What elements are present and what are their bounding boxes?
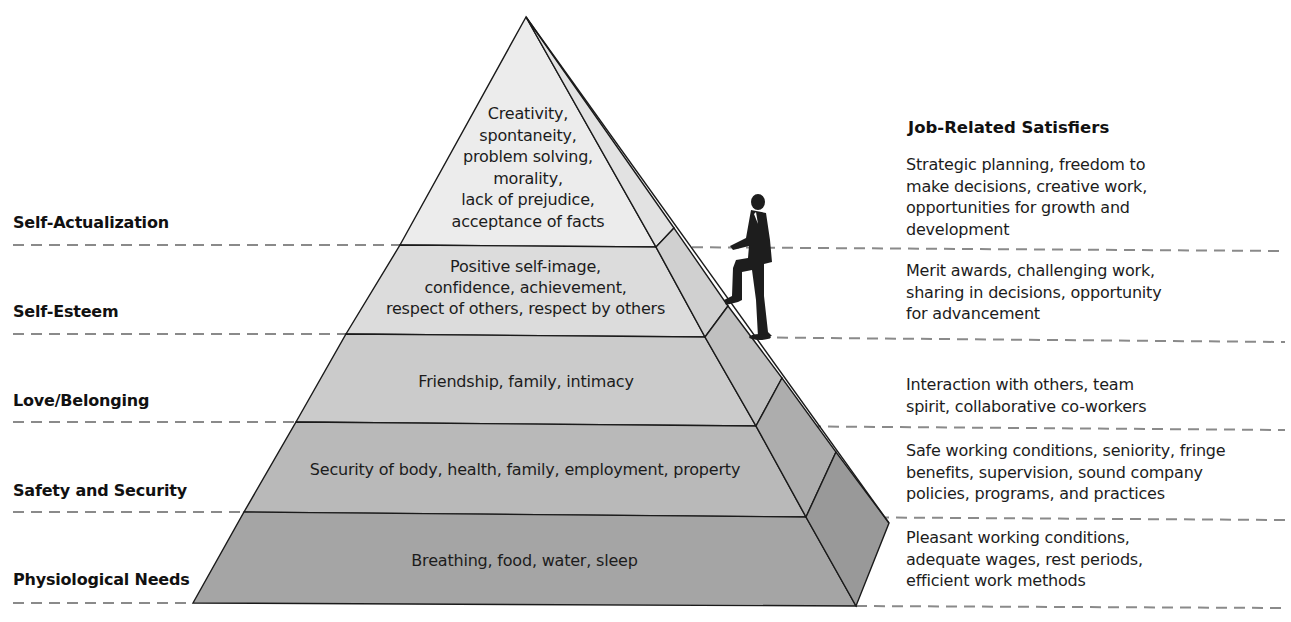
level-label-safety-security: Safety and Security <box>13 481 187 500</box>
satisfier-self-esteem: Merit awards, challenging work, sharing … <box>906 260 1161 325</box>
maslow-diagram: Self-Actualization Self-Esteem Love/Belo… <box>0 0 1291 622</box>
satisfier-love-belonging: Interaction with others, team spirit, co… <box>906 374 1146 417</box>
satisfier-physiological: Pleasant working conditions, adequate wa… <box>906 527 1143 592</box>
tier-text-safety-security: Security of body, health, family, employ… <box>244 459 806 480</box>
satisfier-self-actualization: Strategic planning, freedom to make deci… <box>906 154 1147 240</box>
tier-text-love-belonging: Friendship, family, intimacy <box>296 371 756 392</box>
level-label-physiological: Physiological Needs <box>13 570 190 589</box>
satisfier-safety-security: Safe working conditions, seniority, frin… <box>906 440 1225 505</box>
level-label-self-esteem: Self-Esteem <box>13 302 118 321</box>
tier-text-self-esteem: Positive self-image, confidence, achieve… <box>346 256 705 319</box>
level-label-love-belonging: Love/Belonging <box>13 391 149 410</box>
satisfiers-heading: Job-Related Satisfiers <box>908 118 1109 137</box>
tier-text-physiological: Breathing, food, water, sleep <box>193 550 856 571</box>
tier-text-self-actualization: Creativity, spontaneity, problem solving… <box>400 103 656 232</box>
level-label-self-actualization: Self-Actualization <box>13 213 169 232</box>
